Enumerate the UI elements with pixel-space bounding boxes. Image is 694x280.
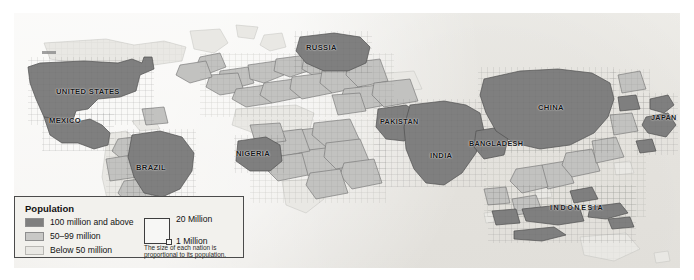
legend-swatch-mid <box>25 232 44 241</box>
legend-swatch-high <box>25 218 44 227</box>
country-label-indonesia: INDONESIA <box>550 203 604 212</box>
country-label-russia: RUSSIA <box>306 43 337 52</box>
world-population-cartogram: UNITED STATES MEXICO BRAZIL RUSSIA NIGER… <box>0 0 694 280</box>
country-label-bangladesh: BANGLADESH <box>469 139 523 148</box>
country-label-china: CHINA <box>538 103 564 112</box>
country-label-brazil: BRAZIL <box>136 163 166 172</box>
country-label-united-states: UNITED STATES <box>56 87 120 96</box>
legend-title: Population <box>25 203 74 214</box>
country-label-pakistan: PAKISTAN <box>380 117 418 126</box>
map-canvas: UNITED STATES MEXICO BRAZIL RUSSIA NIGER… <box>14 13 680 268</box>
legend-label-high: 100 million and above <box>50 217 134 227</box>
country-label-india: INDIA <box>430 151 452 160</box>
scale-label-20-million: 20 Million <box>176 214 212 224</box>
legend-inner-frame: Population 100 million and above 50–99 m… <box>18 200 240 254</box>
country-label-nigeria: NIGERIA <box>236 149 270 158</box>
legend-swatch-low <box>25 246 44 255</box>
map-legend: Population 100 million and above 50–99 m… <box>14 196 244 258</box>
country-label-mexico: MEXICO <box>49 116 81 125</box>
legend-label-mid: 50–99 million <box>50 231 101 241</box>
legend-note: The size of each nation is proportional … <box>144 244 244 259</box>
legend-label-low: Below 50 million <box>50 245 112 255</box>
country-label-japan: JAPAN <box>651 113 677 122</box>
